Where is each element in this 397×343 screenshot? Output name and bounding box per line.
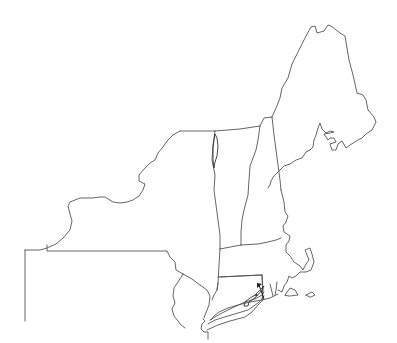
northeast-map (0, 0, 397, 343)
state-massachusetts (220, 222, 314, 300)
island-marthas-vineyard (285, 288, 298, 296)
lake-champlain (213, 134, 218, 168)
border-new-hampshire-massachusetts (241, 190, 288, 245)
state-new-hampshire (241, 117, 272, 245)
state-vermont (212, 126, 260, 249)
state-rhode-island (262, 275, 278, 300)
border-maine-new-hampshire (272, 117, 281, 190)
state-maine (268, 25, 376, 188)
border-new-york-new-england (212, 249, 220, 300)
island-nantucket (306, 292, 315, 297)
state-new-jersey (172, 274, 208, 339)
border-new-york-new-jersey (183, 274, 210, 318)
state-new-york-north (25, 131, 215, 250)
border-new-york-pennsylvania (47, 245, 183, 274)
